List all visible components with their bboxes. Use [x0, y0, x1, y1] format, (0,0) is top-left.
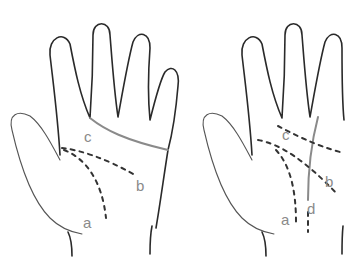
left-wrist-left	[68, 232, 72, 256]
left-line-b	[62, 148, 135, 175]
left-line-a	[64, 150, 106, 218]
right-thumb-outline	[203, 113, 274, 234]
left-line-c	[90, 118, 168, 150]
left-wrist-right	[150, 226, 152, 254]
left-hand-outline	[50, 24, 178, 228]
left-label-a: a	[83, 214, 92, 231]
left-hand: c b a	[11, 24, 178, 256]
right-wrist-left	[262, 232, 266, 256]
left-label-c: c	[84, 128, 92, 145]
right-label-b: b	[325, 173, 333, 190]
right-label-c: c	[282, 126, 290, 143]
right-line-d	[308, 117, 318, 200]
right-wrist-right	[342, 226, 343, 254]
palm-lines-figure: c b a c b d a	[0, 0, 346, 280]
left-label-b: b	[136, 177, 144, 194]
right-label-a: a	[281, 211, 290, 228]
right-hand-outline	[242, 24, 344, 155]
figure-canvas: c b a c b d a	[0, 0, 346, 280]
right-label-d: d	[307, 200, 315, 217]
right-hand: c b d a	[203, 24, 344, 256]
left-thumb-outline	[11, 113, 82, 234]
